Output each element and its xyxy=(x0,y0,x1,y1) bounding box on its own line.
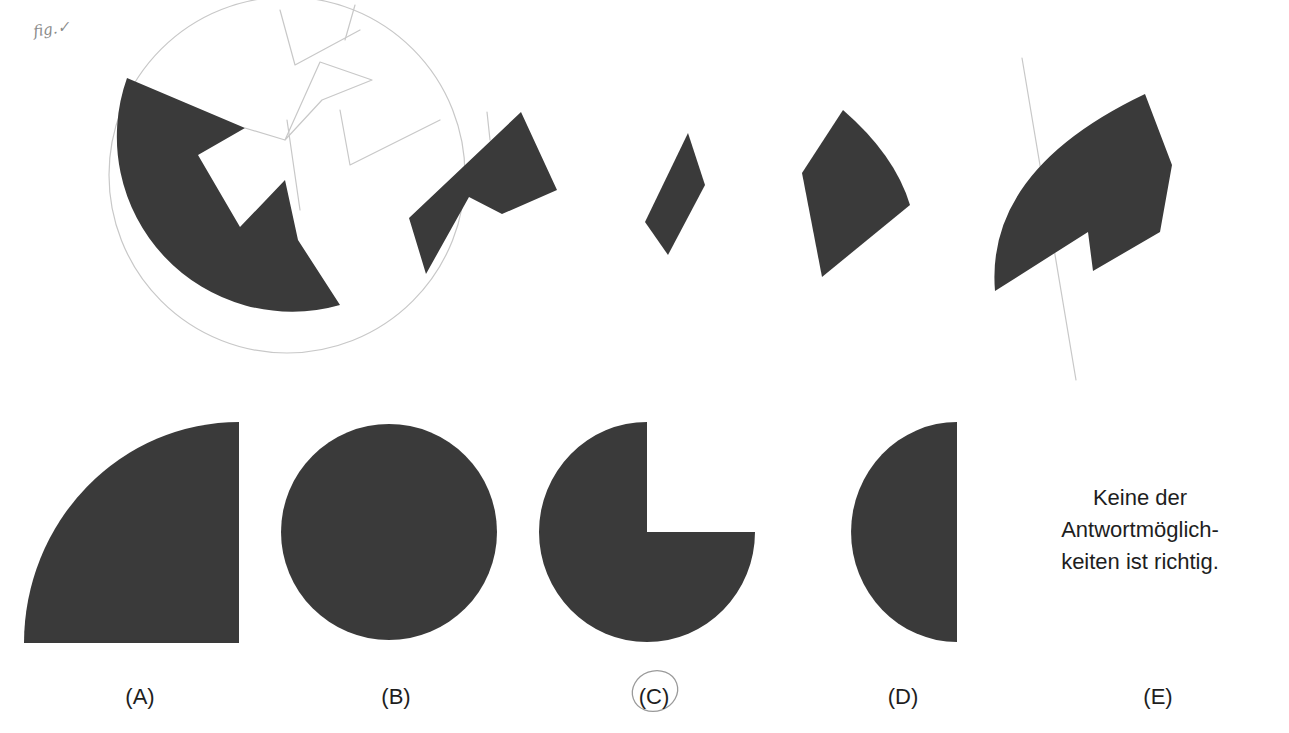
piece-circle-with-cutouts xyxy=(117,78,340,312)
piece-notched-arc-sector xyxy=(994,94,1172,291)
puzzle-figure xyxy=(0,0,1289,733)
piece-small-rhombus xyxy=(645,133,705,255)
option-c-label[interactable]: (C) xyxy=(614,684,694,710)
option-c-shape xyxy=(539,422,755,642)
option-e-label[interactable]: (E) xyxy=(1118,684,1198,710)
pencil-construction-lines xyxy=(109,0,1076,380)
piece-notched-quadrilateral xyxy=(409,112,557,274)
option-d-shape xyxy=(851,422,957,642)
option-a-label[interactable]: (A) xyxy=(100,684,180,710)
option-d-label[interactable]: (D) xyxy=(863,684,943,710)
option-e-line-1: Keine der xyxy=(1040,482,1240,514)
option-e-line-3: keiten ist richtig. xyxy=(1040,546,1240,578)
option-b-shape xyxy=(281,424,497,640)
piece-curved-kite xyxy=(802,110,910,277)
option-a-shape xyxy=(24,422,239,643)
option-b-label[interactable]: (B) xyxy=(356,684,436,710)
option-e-line-2: Antwortmöglich- xyxy=(1040,514,1240,546)
option-e-text: Keine der Antwortmöglich- keiten ist ric… xyxy=(1040,482,1240,578)
test-page: fig.✓ (A) (B) (C) (D) (E) Keine der Antw… xyxy=(0,0,1289,733)
